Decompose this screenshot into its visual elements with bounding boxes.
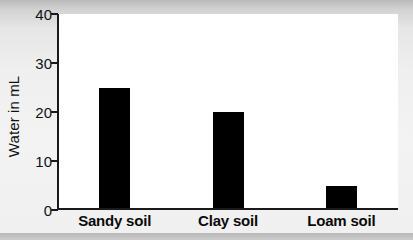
y-axis-tick-labels: 010203040 [20, 0, 52, 233]
x-axis-line [57, 208, 398, 210]
y-axis-tick-label: 0 [24, 203, 52, 218]
bar [99, 88, 130, 211]
x-axis-category-label: Loam soil [307, 212, 375, 229]
x-axis-category-label: Clay soil [198, 212, 258, 229]
y-axis-line [57, 14, 59, 210]
bar [326, 186, 357, 211]
y-axis-tick-label: 10 [24, 154, 52, 169]
y-axis-tick-label: 20 [24, 105, 52, 120]
plot-area [58, 14, 398, 210]
y-axis-tick-label: 30 [24, 56, 52, 71]
y-axis-tick-label: 40 [24, 7, 52, 22]
bar [213, 112, 244, 210]
x-axis-category-label: Sandy soil [78, 212, 151, 229]
x-axis-category-labels: Sandy soilClay soilLoam soil [58, 212, 398, 233]
bar-chart: Water in mL 010203040 Sandy soilClay soi… [0, 0, 413, 233]
